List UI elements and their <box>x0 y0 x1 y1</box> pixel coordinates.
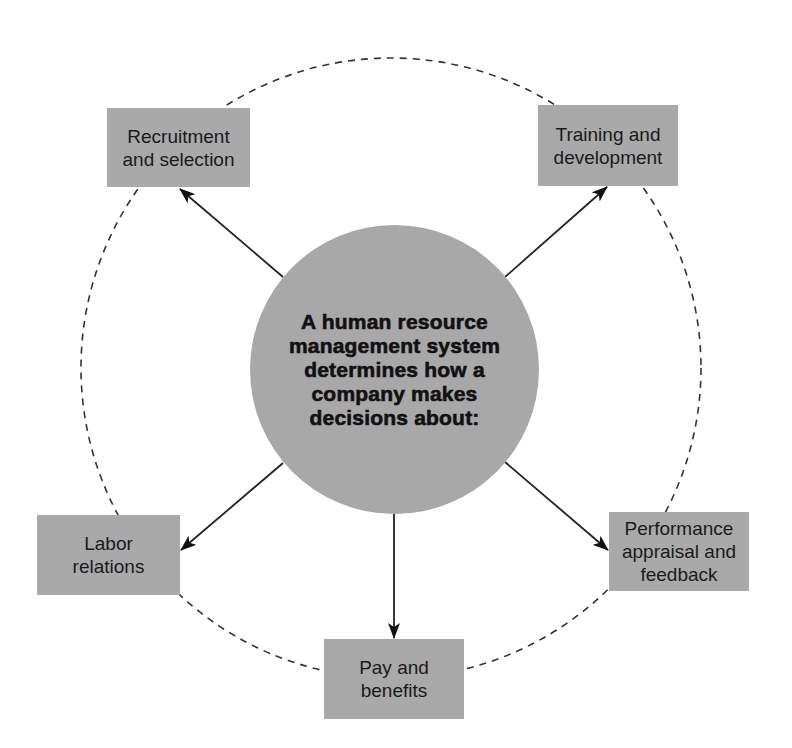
recruitment-line-1: Recruitment <box>123 125 235 148</box>
center-line-1: A human resource <box>265 310 525 334</box>
arrow-to-labor <box>181 463 283 550</box>
recruitment-selection-box: Recruitment and selection <box>107 108 250 187</box>
center-line-5: decisions about: <box>265 406 525 430</box>
performance-line-3: feedback <box>622 563 736 586</box>
arrow-to-training <box>505 187 607 277</box>
performance-line-2: appraisal and <box>622 540 736 563</box>
pay-line-1: Pay and <box>359 656 429 679</box>
hrm-system-text: A human resource management system deter… <box>265 310 525 430</box>
pay-line-2: benefits <box>359 679 429 702</box>
labor-line-2: relations <box>73 555 145 578</box>
pay-benefits-box: Pay and benefits <box>324 639 464 719</box>
center-line-3: determines how a <box>265 358 525 382</box>
center-line-4: company makes <box>265 382 525 406</box>
recruitment-line-2: and selection <box>123 148 235 171</box>
labor-relations-box: Labor relations <box>37 515 180 595</box>
training-line-2: development <box>554 146 663 169</box>
hrm-system-circle: A human resource management system deter… <box>250 225 539 514</box>
performance-appraisal-box: Performance appraisal and feedback <box>609 512 749 591</box>
training-line-1: Training and <box>554 123 663 146</box>
training-development-box: Training and development <box>538 105 678 186</box>
labor-line-1: Labor <box>73 532 145 555</box>
hrm-diagram: A human resource management system deter… <box>0 0 792 748</box>
arrow-to-recruitment <box>180 189 283 277</box>
arrow-to-performance <box>505 462 608 550</box>
center-line-2: management system <box>265 334 525 358</box>
performance-line-1: Performance <box>622 517 736 540</box>
